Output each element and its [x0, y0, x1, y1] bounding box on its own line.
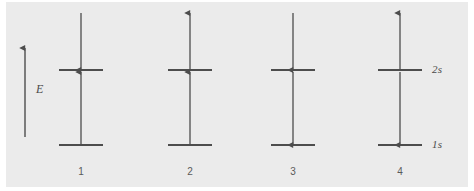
column-number-3: 3	[283, 166, 303, 177]
level-label-2s: 2s	[432, 63, 442, 75]
column-number-1: 1	[71, 166, 91, 177]
column-number-2: 2	[180, 166, 200, 177]
energy-axis-label: E	[36, 82, 43, 97]
orbital-diagram-figure: E 2s1s 1234	[0, 0, 474, 191]
level-label-1s: 1s	[432, 138, 442, 150]
column-number-4: 4	[390, 166, 410, 177]
figure-canvas	[6, 2, 468, 187]
